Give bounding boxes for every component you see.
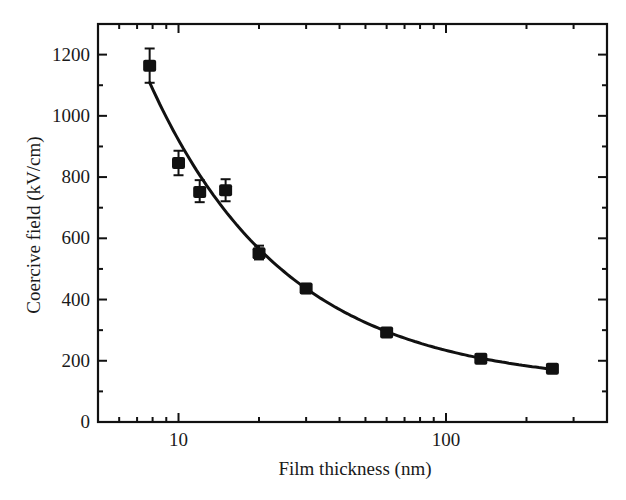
square-marker [380, 327, 393, 339]
data-point [219, 179, 232, 201]
x-tick-label: 100 [432, 429, 461, 450]
square-marker [172, 157, 185, 169]
y-tick-label: 200 [62, 350, 91, 371]
plot-frame [98, 24, 607, 422]
x-axis-title: Film thickness (nm) [278, 458, 431, 480]
y-tick-label: 1000 [52, 105, 90, 126]
square-marker [143, 60, 156, 72]
coercive-field-chart: 02004006008001000120010100 Film thicknes… [0, 0, 626, 500]
data-point [300, 283, 313, 295]
data-point [380, 327, 393, 339]
y-tick-label: 1200 [52, 44, 90, 65]
square-marker [253, 247, 266, 259]
y-tick-label: 0 [81, 411, 91, 432]
chart-canvas: 02004006008001000120010100 Film thicknes… [0, 0, 626, 500]
fit-curve-path [150, 83, 553, 370]
data-point [546, 363, 559, 375]
square-marker [474, 353, 487, 365]
data-point [143, 48, 156, 82]
y-tick-label: 600 [62, 227, 91, 248]
data-points [143, 48, 559, 374]
square-marker [219, 184, 232, 196]
y-tick-label: 800 [62, 166, 91, 187]
y-tick-label: 400 [62, 289, 91, 310]
square-marker [193, 186, 206, 198]
plot-border [98, 24, 607, 422]
data-point [474, 353, 487, 365]
fit-curve [150, 83, 553, 370]
square-marker [546, 363, 559, 375]
x-tick-label: 10 [169, 429, 188, 450]
data-point [172, 151, 185, 175]
y-axis-title: Coercive field (kV/cm) [23, 136, 45, 313]
axis-ticks [98, 24, 607, 422]
data-point [253, 246, 266, 260]
square-marker [300, 283, 313, 295]
